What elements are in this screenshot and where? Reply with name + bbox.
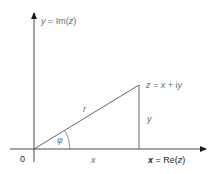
point-z-y: y <box>178 80 183 90</box>
adjacent-x-label: x <box>91 155 96 165</box>
hypotenuse-r-label: r <box>83 104 86 114</box>
point-z-label: z = x + iy <box>146 80 182 90</box>
y-axis-label-close: ) <box>73 16 76 26</box>
phi-angle-label: φ <box>57 135 63 145</box>
x-axis-label: x = Re(z) <box>148 155 185 165</box>
vertical-leg-y-label: y <box>147 114 152 124</box>
x-axis-label-eq: = Re( <box>153 155 178 165</box>
origin-label: 0 <box>20 154 25 164</box>
phi-angle-arc <box>65 130 70 149</box>
x-axis-label-close: ) <box>182 155 185 165</box>
y-axis-label: y = Im(z) <box>41 16 76 26</box>
y-axis-label-eq: = Im( <box>46 16 69 26</box>
hypotenuse-r-line <box>34 85 139 149</box>
point-z-eq: = <box>151 80 161 90</box>
point-z-plus-i: + i <box>165 80 177 90</box>
